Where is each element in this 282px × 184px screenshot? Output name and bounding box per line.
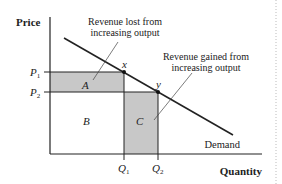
q2-label: Q2 bbox=[152, 162, 164, 176]
lost-annotation-line2: increasing output bbox=[90, 27, 159, 38]
point-x bbox=[122, 70, 126, 74]
demand-diagram: Price Quantity P1 P2 Q1 Q2 x y A B C Dem… bbox=[0, 0, 282, 184]
demand-label: Demand bbox=[204, 139, 240, 150]
gained-annotation-line1: Revenue gained from bbox=[163, 51, 249, 62]
region-a-label: A bbox=[81, 79, 89, 91]
y-axis-label: Price bbox=[16, 16, 41, 28]
q1-label: Q1 bbox=[118, 162, 130, 176]
x-axis-label: Quantity bbox=[220, 165, 263, 177]
point-y bbox=[156, 90, 160, 94]
p2-label: P2 bbox=[29, 86, 41, 100]
point-y-label: y bbox=[155, 78, 161, 90]
region-c-label: C bbox=[136, 115, 144, 127]
point-x-label: x bbox=[121, 58, 127, 70]
gained-annotation-line2: increasing output bbox=[171, 62, 240, 73]
region-b-label: B bbox=[83, 115, 90, 127]
p1-label: P1 bbox=[29, 66, 41, 80]
lost-annotation-line1: Revenue lost from bbox=[88, 16, 162, 27]
